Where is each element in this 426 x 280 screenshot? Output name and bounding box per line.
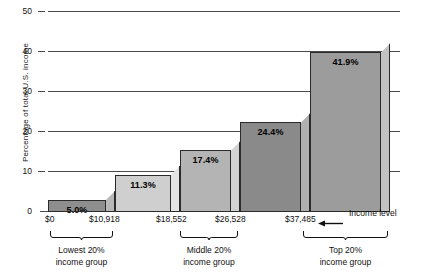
bar-value-label: 17.4% <box>180 155 231 165</box>
group-label: Lowest 20%income group <box>25 245 138 268</box>
group-label-line2: income group <box>155 257 263 269</box>
income-level-label: Income level <box>349 209 397 218</box>
group-label: Top 20%income group <box>278 245 413 268</box>
bar-side-face <box>231 141 240 211</box>
group-bracket <box>180 231 238 240</box>
x-tick-label: $37,485 <box>285 215 316 224</box>
group-label-line1: Lowest 20% <box>25 245 138 257</box>
income-distribution-chart: Percentage of total U.S. income 01020304… <box>0 0 426 280</box>
group-label-line1: Top 20% <box>278 245 413 257</box>
group-bracket <box>50 231 113 240</box>
x-tick-label: $10,918 <box>89 215 120 224</box>
bar-side-face <box>171 166 180 211</box>
bar-side-face <box>301 113 310 211</box>
x-tick-label: $18,552 <box>156 215 187 224</box>
group-bracket <box>303 231 388 240</box>
group-label: Middle 20%income group <box>155 245 263 268</box>
bar-value-label: 24.4% <box>240 127 301 137</box>
bar-5[interactable] <box>310 52 381 211</box>
x-axis-baseline <box>48 211 390 212</box>
x-tick-label: $0 <box>45 215 54 224</box>
income-level-arrow-icon <box>318 213 344 220</box>
x-tick-label: $26,528 <box>215 215 246 224</box>
bar-value-label: 11.3% <box>115 180 171 190</box>
bar-side-face <box>381 43 390 211</box>
group-label-line1: Middle 20% <box>155 245 263 257</box>
bar-value-label: 41.9% <box>310 57 381 67</box>
group-label-line2: income group <box>25 257 138 269</box>
bar-side-face <box>106 191 115 211</box>
group-label-line2: income group <box>278 257 413 269</box>
